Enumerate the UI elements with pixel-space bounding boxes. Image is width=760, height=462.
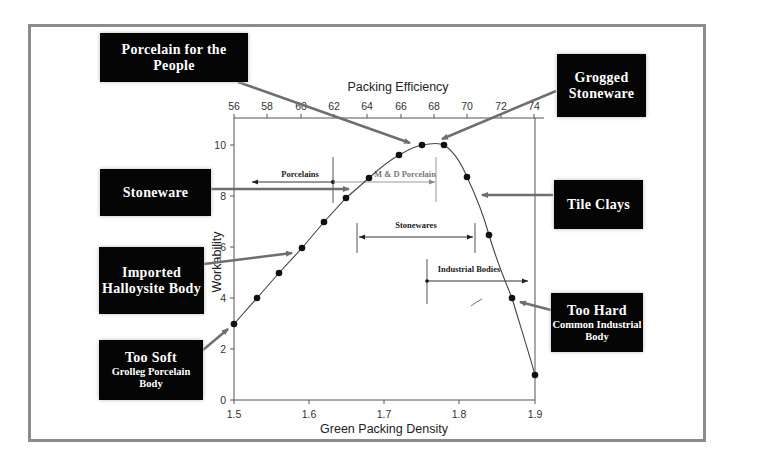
annotation-subtext: Common Industrial — [553, 319, 642, 331]
y-tick: 2 — [220, 343, 226, 355]
annotation-text: Stoneware — [123, 185, 188, 201]
annotation-subtext: Body — [585, 331, 608, 343]
x-tick: 1.5 — [227, 408, 242, 420]
y-tick: 8 — [220, 190, 226, 202]
x-tick: 1.7 — [377, 408, 392, 420]
range-label-md-porcelain: M & D Porcelain — [374, 169, 436, 179]
range-label-porcelains: Porcelains — [281, 169, 319, 179]
x-axis-title: Green Packing Density — [320, 422, 449, 436]
x2-tick: 66 — [395, 100, 407, 112]
annotation-text: Halloysite Body — [102, 281, 201, 297]
x-axis-tick-labels: 1.5 1.6 1.7 1.8 1.9 — [227, 408, 543, 420]
x2-axis-title: Packing Efficiency — [347, 80, 449, 94]
x-tick: 1.8 — [452, 408, 467, 420]
annotation-text: People — [153, 58, 194, 74]
x2-tick: 62 — [328, 100, 340, 112]
x2-tick: 70 — [461, 100, 473, 112]
x2-axis-tick-labels: 56 58 60 62 64 66 68 70 72 74 — [228, 100, 540, 112]
annotation-text: Grogged — [575, 70, 629, 86]
annotation-text: Too Hard — [567, 303, 627, 319]
x2-tick: 72 — [495, 100, 507, 112]
annotation-stoneware: Stoneware — [100, 169, 211, 216]
y-tick: 4 — [220, 292, 226, 304]
annotation-grogged-stoneware: Grogged Stoneware — [557, 54, 646, 117]
x2-tick: 56 — [228, 100, 240, 112]
range-porcelains: Porcelains — [252, 157, 335, 203]
x-tick: 1.6 — [302, 408, 317, 420]
annotation-text: Porcelain for the — [122, 42, 227, 58]
y-tick: 10 — [214, 139, 226, 151]
annotation-arrows — [203, 82, 556, 350]
annotation-imported-halloysite-body: Imported Halloysite Body — [99, 247, 204, 314]
annotation-text: Stoneware — [569, 86, 634, 102]
annotation-porcelain-for-the-people: Porcelain for the People — [100, 33, 248, 82]
range-label-industrial: Industrial Bodies — [438, 264, 501, 274]
annotation-too-hard: Too Hard Common Industrial Body — [551, 293, 643, 352]
annotation-text: Too Soft — [125, 350, 177, 366]
annotation-too-soft: Too Soft Grolleg Porcelain Body — [99, 340, 203, 400]
range-stonewares: Stonewares — [357, 220, 475, 253]
x2-tick: 58 — [261, 100, 273, 112]
x-tick: 1.9 — [528, 408, 543, 420]
annotation-text: Imported — [122, 265, 181, 281]
annotation-subtext: Grolleg Porcelain Body — [99, 366, 203, 390]
annotation-text: Tile Clays — [567, 197, 630, 213]
annotation-tile-clays: Tile Clays — [554, 180, 643, 229]
range-label-stonewares: Stonewares — [395, 220, 437, 230]
x2-tick: 64 — [361, 100, 373, 112]
stray-mark — [471, 299, 482, 306]
x2-tick: 68 — [428, 100, 440, 112]
y-tick: 0 — [220, 394, 226, 406]
